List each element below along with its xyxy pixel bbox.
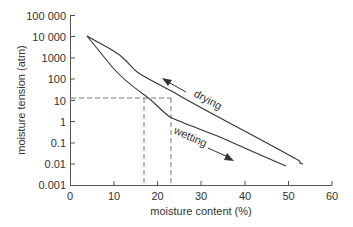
wetting-annotation: wetting bbox=[171, 123, 234, 161]
reference-lines bbox=[71, 98, 171, 185]
x-tick-label: 50 bbox=[282, 190, 294, 202]
moisture-chart: 100 000 10 000 1000 100 10 1 0.1 0.01 0.… bbox=[0, 0, 353, 227]
x-tick-label: 40 bbox=[239, 190, 251, 202]
y-tick-label: 100 000 bbox=[26, 10, 66, 22]
y-tick-label: 0.001 bbox=[38, 179, 66, 191]
x-tick-label: 0 bbox=[67, 190, 73, 202]
y-tick-label: 10 bbox=[54, 95, 66, 107]
y-tick-label: 0.01 bbox=[45, 158, 66, 170]
y-axis-title: moisture tension (atm) bbox=[15, 45, 27, 154]
y-tick-label: 10 000 bbox=[32, 31, 66, 43]
arrow-up-left-icon bbox=[162, 78, 172, 86]
x-tick-label: 10 bbox=[108, 190, 120, 202]
wetting-label: wetting bbox=[171, 123, 209, 149]
x-tick-label: 30 bbox=[195, 190, 207, 202]
x-tick-label: 20 bbox=[151, 190, 163, 202]
y-tick-label: 1 bbox=[60, 116, 66, 128]
y-ticks: 100 000 10 000 1000 100 10 1 0.1 0.01 0.… bbox=[26, 10, 75, 192]
wetting-curve bbox=[87, 36, 286, 166]
drying-label: drying bbox=[192, 87, 224, 112]
y-tick-label: 0.1 bbox=[51, 137, 66, 149]
x-ticks: 0 10 20 30 40 50 60 bbox=[67, 181, 338, 202]
y-tick-label: 1000 bbox=[42, 52, 66, 64]
x-axis-title: moisture content (%) bbox=[150, 205, 251, 217]
x-tick-label: 60 bbox=[326, 190, 338, 202]
y-tick-label: 100 bbox=[48, 73, 66, 85]
arrow-down-right-icon bbox=[224, 153, 234, 161]
